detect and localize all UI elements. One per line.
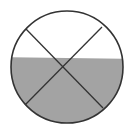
- shaded-region: [0, 57, 134, 132]
- fraction-circle-diagram: [0, 0, 134, 132]
